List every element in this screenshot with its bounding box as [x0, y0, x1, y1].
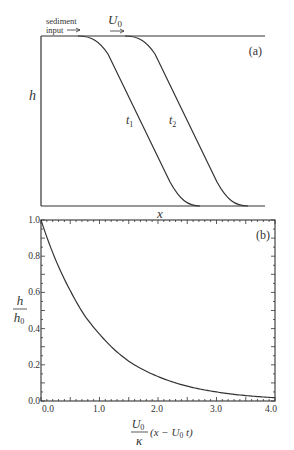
svg-text:0.8: 0.8 — [28, 251, 40, 261]
panel-b-ylabel: h h0 — [13, 293, 27, 326]
svg-text:0.0: 0.0 — [28, 396, 40, 406]
panel-b-xticklabels: 0.0 1.0 2.0 3.0 4.0 — [42, 404, 277, 414]
panel-a-ylabel: h — [29, 88, 36, 103]
panel-b-label: (b) — [256, 228, 270, 242]
figure: sediment input U0 (a) h x t1 t2 0.0 0.2 … — [0, 0, 294, 450]
svg-text:U0: U0 — [132, 417, 145, 432]
panel-b-frame — [41, 220, 275, 401]
curve-label-t2: t2 — [169, 113, 176, 129]
velocity-label: U0 — [108, 12, 122, 29]
panel-a-xlabel: x — [156, 206, 163, 221]
panel-b-yticklabels: 0.0 0.2 0.4 0.6 0.8 1.0 — [28, 215, 40, 406]
svg-text:0.2: 0.2 — [28, 360, 40, 370]
panel-b-ticks — [41, 220, 275, 401]
input-label: input — [46, 25, 64, 35]
curve-t2 — [125, 36, 248, 206]
panel-b: 0.0 0.2 0.4 0.6 0.8 1.0 0.0 1.0 2.0 3.0 … — [13, 215, 277, 448]
svg-text:0.4: 0.4 — [28, 324, 40, 334]
panel-a-label: (a) — [249, 44, 262, 58]
svg-text:3.0: 3.0 — [210, 404, 222, 414]
svg-text:h: h — [17, 293, 24, 308]
svg-text:4.0: 4.0 — [265, 404, 277, 414]
svg-text:1.0: 1.0 — [93, 404, 105, 414]
svg-text:(x − U0 t): (x − U0 t) — [150, 426, 193, 440]
svg-text:κ: κ — [136, 433, 143, 448]
curve-t1 — [78, 36, 200, 206]
decay-curve — [41, 220, 275, 398]
panel-a: sediment input U0 (a) h x t1 t2 — [29, 12, 265, 221]
svg-text:h0: h0 — [14, 310, 25, 326]
svg-text:1.0: 1.0 — [28, 215, 40, 225]
panel-b-xlabel: U0 κ (x − U0 t) — [131, 417, 193, 448]
svg-text:0.0: 0.0 — [42, 404, 54, 414]
svg-text:2.0: 2.0 — [151, 404, 163, 414]
svg-text:0.6: 0.6 — [28, 287, 40, 297]
curve-label-t1: t1 — [126, 113, 133, 129]
